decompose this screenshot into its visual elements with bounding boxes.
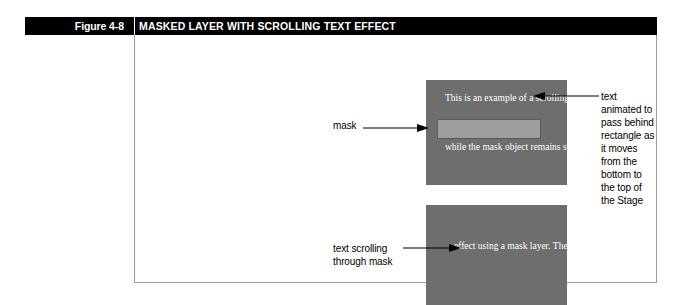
figure-title: MASKED LAYER WITH SCROLLING TEXT EFFECT: [139, 17, 396, 35]
leader-arrow-text-animated: [533, 91, 599, 101]
header-divider: [134, 17, 135, 35]
mask-rectangle: [437, 119, 541, 139]
stage-bottom-text: effect using a mask layer. The text move…: [454, 240, 611, 252]
callout-label-mask: mask: [333, 119, 357, 132]
leader-arrow-mask: [363, 123, 429, 133]
callout-label-text-animated: text animated to pass behind rectangle a…: [601, 90, 656, 207]
stage-box-bottom: effect using a mask layer. The text move…: [426, 205, 567, 305]
callout-label-text-scrolling: text scrolling through mask: [333, 242, 392, 268]
leader-arrow-text-scrolling: [403, 243, 461, 253]
figure-number-label: Figure 4-8: [25, 17, 129, 35]
figure-frame: This is an example of a scrolling text w…: [134, 35, 657, 283]
stage-top-text-lower: while the mask object remains stationary…: [445, 141, 602, 153]
figure-header-bar: Figure 4-8 MASKED LAYER WITH SCROLLING T…: [25, 17, 657, 35]
